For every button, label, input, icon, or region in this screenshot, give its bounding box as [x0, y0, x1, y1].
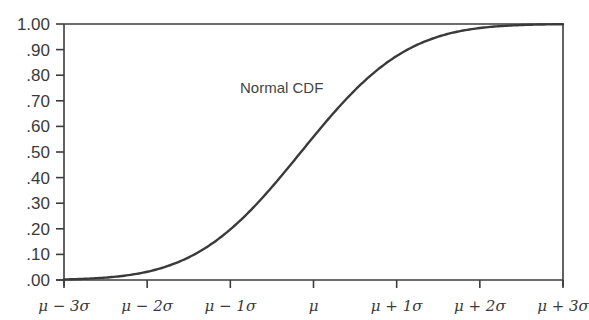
y-axis-ticks: 1.00.90.80.70.60.50.40.30.20.10.00 — [17, 15, 64, 290]
y-tick-label: .70 — [26, 92, 50, 111]
x-tick-label: μ − 3σ — [38, 297, 90, 315]
x-tick-label: μ − 2σ — [121, 297, 173, 315]
y-tick-label: .80 — [26, 66, 50, 85]
y-tick-label: 1.00 — [17, 15, 50, 34]
x-axis-ticks: μ − 3σμ − 2σμ − 1σμμ + 1σμ + 2σμ + 3σ — [38, 280, 589, 315]
x-tick-label: μ — [309, 297, 319, 315]
x-tick-label: μ + 3σ — [537, 297, 589, 315]
x-tick-label: μ + 1σ — [371, 297, 423, 315]
curve-label: Normal CDF — [240, 79, 323, 96]
y-tick-label: .50 — [26, 143, 50, 162]
y-tick-label: .60 — [26, 117, 50, 136]
y-tick-label: .00 — [26, 271, 50, 290]
x-tick-label: μ − 1σ — [205, 297, 257, 315]
y-tick-label: .90 — [26, 41, 50, 60]
cdf-curve — [64, 24, 563, 279]
x-tick-label: μ + 2σ — [454, 297, 506, 315]
y-tick-label: .40 — [26, 169, 50, 188]
y-tick-label: .10 — [26, 245, 50, 264]
y-tick-label: .30 — [26, 194, 50, 213]
y-tick-label: .20 — [26, 220, 50, 239]
normal-cdf-chart: 1.00.90.80.70.60.50.40.30.20.10.00 μ − 3… — [0, 0, 589, 320]
